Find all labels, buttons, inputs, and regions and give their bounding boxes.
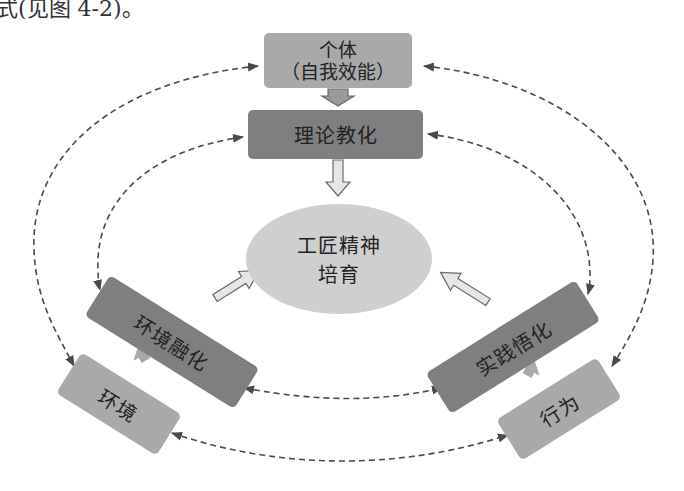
block-arrow-theory-center (326, 160, 350, 196)
dashed-arrow-theory-envintegration (98, 137, 243, 290)
node-theory-label: 理论教化 (294, 120, 378, 149)
node-individual-line2: （自我效能） (281, 61, 395, 83)
node-individual: 个体 （自我效能） (264, 33, 412, 88)
dashed-arrow-theory-practice (428, 134, 590, 294)
dashed-arrow-envintegration-practice (244, 388, 442, 399)
node-center-craftsman-spirit: 工匠精神 培育 (246, 204, 432, 314)
node-theory: 理论教化 (248, 110, 423, 159)
block-arrow-practice-center (435, 264, 493, 311)
node-center-line1: 工匠精神 (297, 230, 381, 259)
node-environment-label: 环境 (94, 381, 145, 428)
node-center-line2: 培育 (318, 259, 360, 288)
block-arrow-individual-theory (322, 89, 354, 106)
dashed-arrow-environment-behavior (172, 433, 508, 461)
node-individual-line1: 个体 (319, 39, 357, 61)
node-behavior-label: 行为 (534, 386, 585, 433)
